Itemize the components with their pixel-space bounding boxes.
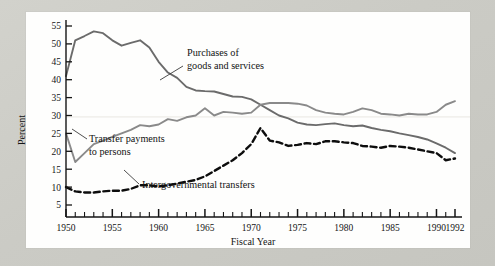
leader-transfers: [72, 129, 87, 139]
x-tick-label: 1965: [195, 223, 214, 233]
annotation-purchases-line2: goods and services: [187, 60, 264, 71]
x-tick-label: 1970: [242, 223, 261, 233]
y-tick-label: 30: [52, 111, 62, 121]
figure-root: 5101520253035404550551950195519601965197…: [0, 0, 495, 266]
annotation-transfers-line2: to persons: [89, 146, 131, 157]
x-axis-title: Fiscal Year: [231, 236, 276, 247]
axes-group: [66, 20, 462, 217]
annotation-intergovernmental: Intergovernmental transfers: [142, 179, 255, 190]
y-tick-label: 40: [52, 75, 62, 85]
leader-intergovernmental: [124, 170, 139, 184]
x-tick-label: 1985: [381, 223, 400, 233]
x-tick-label: 1975: [288, 223, 307, 233]
x-tick-label: 1950: [57, 223, 76, 233]
x-tick-label: 1990: [427, 223, 446, 233]
x-tick-label: 1980: [334, 223, 353, 233]
y-tick-label: 20: [52, 147, 62, 157]
y-tick-label: 35: [52, 93, 62, 103]
x-tick-label: 1955: [103, 223, 122, 233]
x-tick-label: 1960: [149, 223, 168, 233]
leader-lines-group: [72, 66, 183, 184]
y-tick-label: 25: [52, 129, 62, 139]
annotation-transfers-line1: Transfer payments: [89, 133, 165, 144]
y-tick-label: 45: [52, 57, 62, 67]
line-chart: 5101520253035404550551950195519601965197…: [0, 0, 495, 266]
y-tick-label: 15: [52, 165, 62, 175]
y-tick-label: 50: [52, 39, 62, 49]
y-axis-title: Percent: [16, 115, 27, 145]
y-tick-label: 55: [52, 21, 62, 31]
x-tick-label: 1992: [446, 223, 465, 233]
y-tick-label: 5: [56, 200, 61, 210]
annotation-purchases-line1: Purchases of: [187, 47, 239, 58]
tick-labels-group: 5101520253035404550551950195519601965197…: [52, 21, 465, 233]
data-series-group: [66, 31, 455, 192]
y-tick-label: 10: [52, 183, 62, 193]
